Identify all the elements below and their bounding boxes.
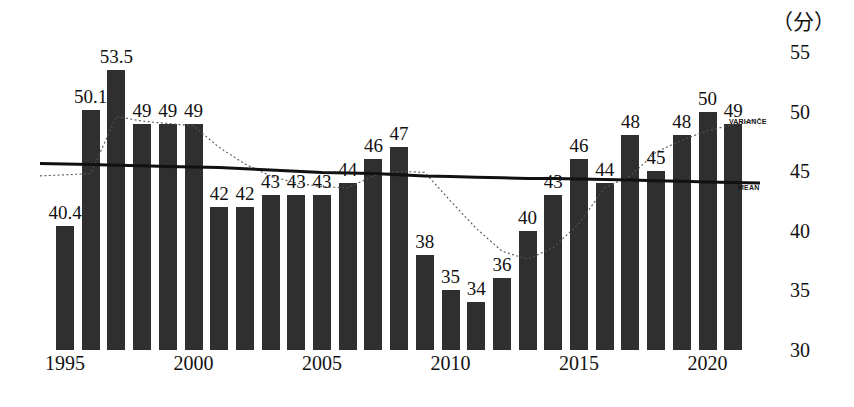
x-axis-tick-label: 2010 bbox=[421, 353, 481, 373]
y-axis-tick-label: 35 bbox=[790, 280, 810, 300]
y-axis-tick-label: 40 bbox=[790, 221, 810, 241]
x-axis-tick-label: 1995 bbox=[35, 353, 95, 373]
x-axis-tick-label: 2020 bbox=[678, 353, 738, 373]
y-axis-tick-label: 45 bbox=[790, 161, 810, 181]
axis-layer: 199520002005201020152020555045403530 bbox=[0, 0, 854, 407]
chart-root: 40.450.153.54949494242434343444647383534… bbox=[0, 0, 854, 407]
y-axis-tick-label: 50 bbox=[790, 102, 810, 122]
variance-series-label: VARIANCE bbox=[729, 118, 767, 125]
y-axis-unit-label: （分） bbox=[772, 12, 835, 33]
y-axis-tick-label: 30 bbox=[790, 340, 810, 360]
x-axis-tick-label: 2000 bbox=[164, 353, 224, 373]
mean-series-label: MEAN bbox=[738, 184, 759, 191]
x-axis-tick-label: 2015 bbox=[549, 353, 609, 373]
x-axis-tick-label: 2005 bbox=[292, 353, 352, 373]
y-axis-tick-label: 55 bbox=[790, 42, 810, 62]
